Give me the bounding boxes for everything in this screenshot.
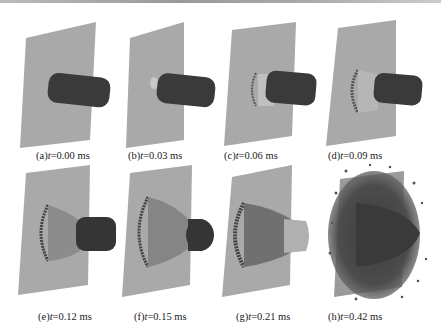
simulation-image-b: [122, 18, 227, 153]
page-header-rule: [0, 0, 441, 3]
panel-g: (g)t=0.21 ms: [222, 163, 327, 333]
panel-h: (h)t=0.42 ms: [326, 163, 431, 333]
caption-d: (d)t=0.09 ms: [328, 150, 382, 161]
caption-h: (h)t=0.42 ms: [328, 311, 382, 322]
panel-c: (c)t=0.06 ms: [222, 18, 327, 168]
simulation-image-c: [222, 18, 327, 153]
panel-a: (a)t=0.00 ms: [18, 18, 123, 168]
simulation-image-d: [326, 18, 436, 153]
panel-e: (e)t=0.12 ms: [18, 163, 123, 333]
simulation-image-e: [18, 163, 123, 303]
simulation-image-a: [18, 18, 123, 153]
caption-e: (e)t=0.12 ms: [38, 311, 92, 322]
caption-f: (f)t=0.15 ms: [134, 311, 187, 322]
simulation-image-g: [222, 163, 327, 303]
simulation-image-f: [122, 163, 227, 303]
panel-b: (b)t=0.03 ms: [122, 18, 227, 168]
simulation-image-h: [326, 163, 436, 303]
caption-b: (b)t=0.03 ms: [128, 150, 182, 161]
caption-g: (g)t=0.21 ms: [236, 311, 290, 322]
caption-c: (c)t=0.06 ms: [224, 150, 278, 161]
panel-f: (f)t=0.15 ms: [122, 163, 227, 333]
caption-a: (a)t=0.00 ms: [36, 150, 90, 161]
panel-d: (d)t=0.09 ms: [326, 18, 431, 168]
